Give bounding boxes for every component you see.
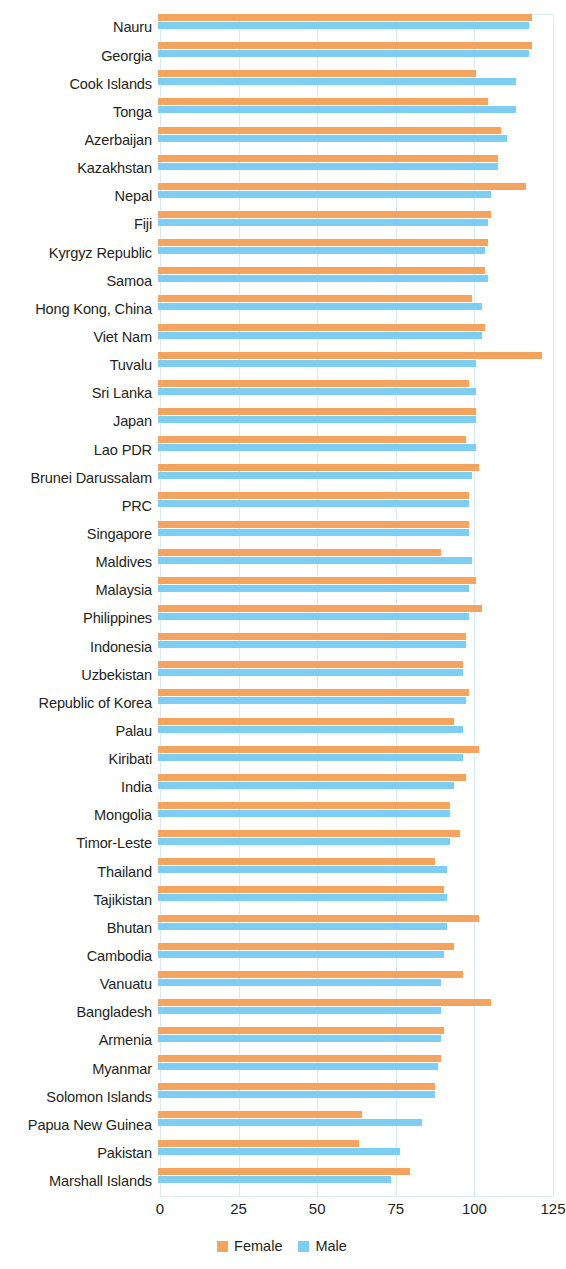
legend-item-female[interactable]: Female [217,1238,282,1254]
bar-male [158,416,476,423]
bar-group [158,380,564,408]
bar-female [158,971,463,978]
bar-male [158,1063,438,1070]
bar-female [158,436,466,443]
bar-row: Thailand [0,858,564,886]
bar-female [158,70,476,77]
bar-male [158,1148,400,1155]
bar-female [158,408,476,415]
bar-row: Republic of Korea [0,689,564,717]
bar-row: Philippines [0,605,564,633]
bar-row: Malaysia [0,577,564,605]
bar-row: Hong Kong, China [0,295,564,323]
bar-female [158,718,454,725]
bar-female [158,886,444,893]
bar-female [158,1111,362,1118]
category-label: Georgia [0,49,158,64]
category-label: India [0,780,158,795]
bar-male [158,754,463,761]
bar-row: Fiji [0,211,564,239]
bar-male [158,1091,435,1098]
bar-row: Nauru [0,14,564,42]
bar-rows: NauruGeorgiaCook IslandsTongaAzerbaijanK… [0,14,564,1196]
category-label: Marshall Islands [0,1174,158,1189]
bar-female [158,802,450,809]
bar-group [158,577,564,605]
category-label: Bangladesh [0,1005,158,1020]
category-label: Republic of Korea [0,696,158,711]
bar-row: PRC [0,492,564,520]
bar-female [158,155,498,162]
bar-row: Solomon Islands [0,1083,564,1111]
bar-group [158,1111,564,1139]
bar-group [158,858,564,886]
legend-label: Male [315,1238,346,1254]
bar-female [158,1140,359,1147]
bar-group [158,324,564,352]
bar-group [158,746,564,774]
bar-group [158,689,564,717]
bar-female [158,521,469,528]
bar-male [158,1176,391,1183]
bar-row: Bangladesh [0,999,564,1027]
bar-female [158,324,485,331]
category-label: Sri Lanka [0,386,158,401]
bar-male [158,332,482,339]
bar-group [158,1055,564,1083]
plot-area: NauruGeorgiaCook IslandsTongaAzerbaijanK… [0,0,564,1196]
bar-male [158,1119,422,1126]
bar-female [158,1083,435,1090]
bar-row: Pakistan [0,1140,564,1168]
chart-legend: FemaleMale [0,1238,564,1254]
x-tick-100: 100 [462,1200,487,1217]
legend-item-male[interactable]: Male [298,1238,346,1254]
bar-row: Palau [0,718,564,746]
bar-female [158,943,454,950]
bar-male [158,585,469,592]
bar-female [158,211,491,218]
category-label: Lao PDR [0,443,158,458]
bar-female [158,239,488,246]
bar-row: Kyrgyz Republic [0,239,564,267]
category-label: Azerbaijan [0,133,158,148]
bar-female [158,549,441,556]
bar-row: Azerbaijan [0,127,564,155]
bar-female [158,183,526,190]
bar-group [158,605,564,633]
bar-row: Sri Lanka [0,380,564,408]
bar-female [158,661,463,668]
bar-row: Cook Islands [0,70,564,98]
bar-female [158,633,466,640]
category-label: Armenia [0,1033,158,1048]
category-label: Tuvalu [0,358,158,373]
bar-group [158,1140,564,1168]
bar-row: Cambodia [0,943,564,971]
bar-row: Singapore [0,521,564,549]
bar-male [158,866,447,873]
bar-row: Mongolia [0,802,564,830]
bar-group [158,239,564,267]
bar-group [158,464,564,492]
bar-row: Brunei Darussalam [0,464,564,492]
category-label: PRC [0,499,158,514]
bar-male [158,388,476,395]
bar-female [158,689,469,696]
bar-male [158,669,463,676]
bar-male [158,529,469,536]
category-label: Malaysia [0,583,158,598]
bar-male [158,838,450,845]
category-label: Thailand [0,865,158,880]
bar-group [158,971,564,999]
bar-female [158,774,466,781]
bar-row: Samoa [0,267,564,295]
bar-row: Lao PDR [0,436,564,464]
category-label: Kazakhstan [0,161,158,176]
bar-female [158,605,482,612]
bar-group [158,915,564,943]
bar-group [158,802,564,830]
bar-group [158,70,564,98]
bar-row: Vanuatu [0,971,564,999]
bar-group [158,661,564,689]
x-tick-0: 0 [156,1200,164,1217]
bar-male [158,191,491,198]
